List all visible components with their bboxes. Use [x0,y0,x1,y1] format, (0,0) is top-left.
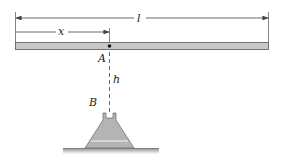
height-label: h [113,73,120,86]
point-a-dot [108,44,112,48]
beam-bar [16,43,269,50]
length-label: l [137,12,141,25]
beam-support-diagram: l x A h B [0,0,286,164]
support-b-label: B [88,96,97,109]
distance-label: x [58,25,65,38]
point-a-label: A [97,52,106,65]
support-pedestal [85,113,134,148]
length-dimension: l [16,12,268,25]
extension-lines [16,12,269,42]
distance-dimension: x [16,25,109,38]
